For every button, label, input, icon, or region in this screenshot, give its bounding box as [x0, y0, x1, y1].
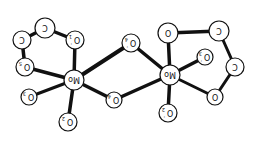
- atom-subscript: 4: [108, 94, 111, 100]
- atom-Mo_L: Mo: [64, 70, 84, 90]
- atom-label: O: [130, 38, 136, 47]
- atom-prime: ': [164, 113, 165, 119]
- atom-prime: ': [201, 57, 202, 63]
- atom-label: O: [67, 117, 73, 126]
- atom-label: O: [204, 52, 210, 61]
- atom-label: C: [232, 62, 238, 71]
- atom-label: O: [74, 35, 80, 44]
- atom-O1p: O1': [66, 31, 84, 49]
- molecule-diagram: MoMoO1'CCO5O3O2O4O4'OCCOO3'O2': [0, 0, 253, 142]
- atom-label: O: [212, 92, 218, 101]
- atom-prime: ': [127, 43, 128, 49]
- atom-O4: O4: [106, 92, 122, 108]
- atom-label: C: [19, 35, 25, 44]
- atom-label: Mo: [68, 75, 80, 84]
- atom-C_R2: C: [226, 58, 244, 76]
- atom-subscript: 2: [162, 107, 165, 113]
- atom-O_R1: O: [158, 23, 178, 43]
- atom-label: O: [24, 62, 30, 71]
- atom-O5: O5: [16, 58, 34, 76]
- atom-O2: O2: [59, 113, 77, 131]
- atom-subscript: 4: [125, 37, 128, 43]
- atom-label: O: [28, 92, 34, 101]
- atom-label: C: [42, 23, 48, 32]
- atom-subscript: 2: [62, 116, 65, 122]
- atom-label: O: [165, 28, 171, 37]
- atom-label: O: [167, 108, 173, 117]
- atom-label: Mo: [164, 70, 176, 79]
- atom-prime: ': [71, 40, 72, 46]
- atom-subscript: 5: [19, 61, 22, 67]
- atom-O4p: O4': [122, 34, 140, 52]
- atom-subscript: 1: [69, 34, 72, 40]
- atom-O3p: O3': [197, 49, 213, 65]
- atom-label: C: [216, 26, 222, 35]
- atom-Mo_R: Mo: [160, 65, 180, 85]
- atom-O2p: O2': [159, 104, 177, 122]
- atom-subscript: 3: [199, 51, 202, 57]
- atom-C_R1: C: [209, 21, 229, 41]
- atom-C_L1: C: [35, 18, 55, 38]
- atom-label: O: [113, 95, 119, 104]
- atom-C_L2: C: [13, 31, 31, 49]
- atom-O_R2: O: [207, 89, 223, 105]
- molecule-svg: MoMoO1'CCO5O3O2O4O4'OCCOO3'O2': [0, 0, 253, 142]
- atom-subscript: 3: [23, 91, 26, 97]
- atom-O3: O3: [21, 89, 37, 105]
